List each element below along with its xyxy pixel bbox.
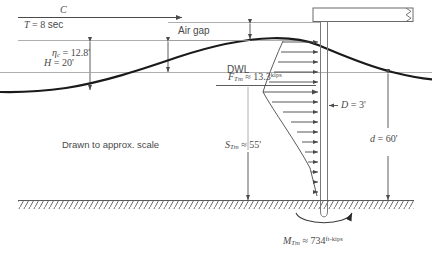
period-value: 8 [40, 19, 45, 30]
total-force-label: FTm ≈ 13.3kips [228, 72, 282, 83]
overturning-moment-rel: ≈ [303, 235, 309, 246]
celerity-label: C [60, 5, 67, 15]
water-depth-symbol: d [370, 133, 375, 144]
overturning-moment-unit: ft-kips [326, 235, 343, 242]
water-depth-value: 60 [386, 133, 396, 144]
overturning-moment-arrow [296, 213, 352, 223]
scale-note: Drawn to approx. scale [62, 140, 159, 150]
total-force-unit: kips [271, 71, 282, 78]
lever-arm-unit: ' [259, 139, 261, 150]
overturning-moment-label: MTm ≈ 734ft-kips [283, 236, 343, 247]
force-distribution-diagram [263, 41, 318, 196]
crest-elevation-rel: = [63, 47, 69, 58]
pile-diameter-symbol: D [341, 99, 348, 110]
figure-canvas: C T = 8 sec H = 20' ηc = 12.8' Air gap D… [0, 0, 432, 255]
crest-elevation-subscript: c [57, 51, 60, 58]
crest-elevation-value: 12.8 [71, 47, 89, 58]
water-depth-unit: ' [396, 133, 398, 144]
pile-diameter-label: D = 3' [341, 100, 366, 110]
period-unit: sec [48, 19, 64, 30]
water-depth-label: d = 60' [370, 134, 397, 144]
wave-period-label: T = 8 sec [24, 20, 63, 30]
seabed [18, 201, 414, 210]
diagram-svg [0, 0, 432, 255]
lever-arm-rel: ≈ [241, 139, 247, 150]
air-gap-label: Air gap [178, 26, 210, 36]
overturning-moment-value: 734 [311, 235, 326, 246]
crest-elevation-unit: ' [88, 47, 90, 58]
lever-arm-subscript: Tm [230, 143, 239, 150]
wave-height-label: H = 20' [44, 58, 74, 68]
lever-arm-label: STm ≈ 55' [225, 140, 261, 151]
pile-diameter-unit: ' [364, 99, 366, 110]
wave-height-symbol: H [44, 57, 51, 68]
total-force-value: 13.3 [253, 71, 271, 82]
overturning-moment-subscript: Tm [291, 239, 300, 246]
crest-elevation-label: ηc = 12.8' [52, 48, 90, 59]
water-depth-rel: = [378, 133, 384, 144]
pile [321, 22, 328, 217]
lever-arm-value: 55 [249, 139, 259, 150]
total-force-rel: ≈ [245, 71, 251, 82]
period-rel: = [32, 19, 38, 30]
period-symbol: T [24, 19, 30, 30]
pile-diameter-rel: = [351, 99, 357, 110]
total-force-subscript: Tm [234, 75, 243, 82]
platform-deck [313, 8, 413, 22]
